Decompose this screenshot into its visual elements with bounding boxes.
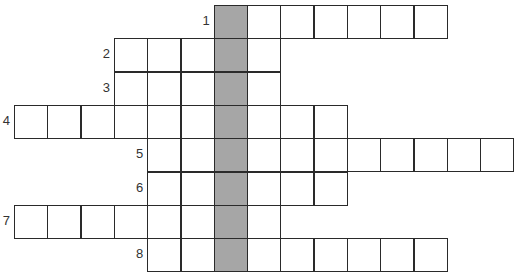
crossword-cell-r7-c7[interactable]: [214, 205, 248, 239]
clue-number-5: 5: [123, 146, 143, 161]
crossword-cell-r4-c9[interactable]: [280, 105, 314, 139]
crossword-cell-r1-c9[interactable]: [280, 5, 314, 39]
crossword-cell-r7-c5[interactable]: [147, 205, 181, 239]
crossword-cell-r4-c4[interactable]: [114, 105, 148, 139]
crossword-cell-r5-c7[interactable]: [214, 138, 248, 172]
crossword-cell-r6-c8[interactable]: [247, 172, 281, 206]
crossword-cell-r5-c8[interactable]: [247, 138, 281, 172]
clue-number-2: 2: [90, 46, 110, 61]
crossword-cell-r5-c11[interactable]: [347, 138, 381, 172]
crossword-cell-r5-c14[interactable]: [447, 138, 481, 172]
crossword-cell-r8-c9[interactable]: [280, 238, 314, 272]
crossword-cell-r7-c2[interactable]: [47, 205, 81, 239]
crossword-cell-r5-c12[interactable]: [380, 138, 414, 172]
crossword-cell-r5-c15[interactable]: [480, 138, 514, 172]
crossword-cell-r1-c7[interactable]: [214, 5, 248, 39]
crossword-cell-r8-c7[interactable]: [214, 238, 248, 272]
crossword-cell-r6-c6[interactable]: [181, 172, 215, 206]
crossword-cell-r1-c10[interactable]: [314, 5, 348, 39]
crossword-cell-r4-c1[interactable]: [14, 105, 48, 139]
crossword-cell-r8-c11[interactable]: [347, 238, 381, 272]
crossword-cell-r5-c6[interactable]: [181, 138, 215, 172]
crossword-cell-r8-c12[interactable]: [380, 238, 414, 272]
crossword-cell-r6-c10[interactable]: [314, 172, 348, 206]
clue-number-3: 3: [90, 80, 110, 95]
crossword-cell-r2-c4[interactable]: [114, 38, 148, 72]
crossword-cell-r8-c8[interactable]: [247, 238, 281, 272]
crossword-cell-r8-c10[interactable]: [314, 238, 348, 272]
crossword-cell-r3-c6[interactable]: [181, 72, 215, 106]
crossword-cell-r4-c6[interactable]: [181, 105, 215, 139]
crossword-cell-r5-c5[interactable]: [147, 138, 181, 172]
crossword-cell-r4-c2[interactable]: [47, 105, 81, 139]
crossword-cell-r4-c10[interactable]: [314, 105, 348, 139]
crossword-cell-r4-c3[interactable]: [81, 105, 115, 139]
clue-number-6: 6: [123, 180, 143, 195]
crossword-cell-r1-c8[interactable]: [247, 5, 281, 39]
crossword-cell-r5-c9[interactable]: [280, 138, 314, 172]
crossword-cell-r2-c8[interactable]: [247, 38, 281, 72]
crossword-cell-r6-c9[interactable]: [280, 172, 314, 206]
clue-number-1: 1: [190, 13, 210, 28]
crossword-cell-r3-c5[interactable]: [147, 72, 181, 106]
clue-number-7: 7: [0, 213, 10, 228]
crossword-cell-r5-c13[interactable]: [414, 138, 448, 172]
crossword-cell-r7-c3[interactable]: [81, 205, 115, 239]
crossword-cell-r6-c5[interactable]: [147, 172, 181, 206]
crossword-cell-r3-c8[interactable]: [247, 72, 281, 106]
crossword-cell-r8-c6[interactable]: [181, 238, 215, 272]
clue-number-4: 4: [0, 113, 10, 128]
crossword-cell-r7-c6[interactable]: [181, 205, 215, 239]
crossword-cell-r3-c4[interactable]: [114, 72, 148, 106]
crossword-cell-r2-c5[interactable]: [147, 38, 181, 72]
crossword-cell-r6-c7[interactable]: [214, 172, 248, 206]
crossword-cell-r4-c8[interactable]: [247, 105, 281, 139]
crossword-cell-r7-c4[interactable]: [114, 205, 148, 239]
crossword-cell-r7-c8[interactable]: [247, 205, 281, 239]
crossword-cell-r2-c7[interactable]: [214, 38, 248, 72]
crossword-cell-r5-c10[interactable]: [314, 138, 348, 172]
crossword-cell-r1-c11[interactable]: [347, 5, 381, 39]
clue-number-8: 8: [123, 246, 143, 261]
crossword-cell-r1-c13[interactable]: [414, 5, 448, 39]
crossword-cell-r4-c5[interactable]: [147, 105, 181, 139]
crossword-cell-r8-c5[interactable]: [147, 238, 181, 272]
crossword-cell-r4-c7[interactable]: [214, 105, 248, 139]
crossword-cell-r8-c13[interactable]: [414, 238, 448, 272]
crossword-cell-r1-c12[interactable]: [380, 5, 414, 39]
crossword-cell-r2-c6[interactable]: [181, 38, 215, 72]
crossword-cell-r3-c7[interactable]: [214, 72, 248, 106]
crossword-cell-r7-c1[interactable]: [14, 205, 48, 239]
